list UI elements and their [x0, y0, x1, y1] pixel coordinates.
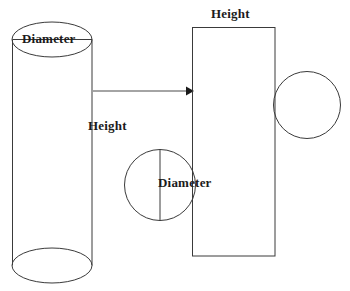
- cylinder-bottom-ellipse: [12, 248, 92, 283]
- cylinder-height-label: Height: [88, 119, 127, 132]
- circle-diameter-label: Diameter: [158, 176, 212, 189]
- cylinder-net: [125, 28, 341, 257]
- cylinder-diameter-label: Diameter: [22, 32, 76, 45]
- rectangle-height-label: Height: [211, 7, 250, 20]
- cylinder-shape: [12, 22, 92, 283]
- lateral-surface-rectangle: [193, 28, 276, 257]
- top-base-circle: [274, 72, 341, 139]
- transform-arrow: [93, 87, 194, 96]
- diagram-canvas: Diameter Height Height Diameter: [0, 0, 350, 291]
